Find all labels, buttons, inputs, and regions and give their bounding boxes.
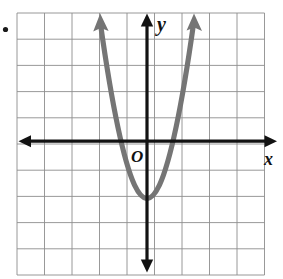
x-axis-label: x bbox=[263, 149, 273, 169]
figure-background bbox=[0, 0, 283, 279]
graph-figure: y x O bbox=[0, 0, 283, 279]
y-axis-label: y bbox=[155, 13, 166, 36]
origin-label: O bbox=[131, 147, 143, 166]
coordinate-plane-svg: y x O bbox=[0, 0, 283, 279]
bullet-marker-icon bbox=[3, 27, 8, 32]
